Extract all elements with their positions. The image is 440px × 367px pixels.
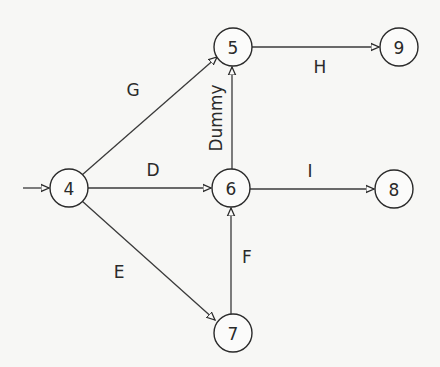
svg-text:6: 6 xyxy=(226,179,237,199)
svg-text:7: 7 xyxy=(228,324,239,344)
edge-label-g: G xyxy=(126,80,139,100)
edge-label-f: F xyxy=(242,247,252,267)
svg-text:4: 4 xyxy=(64,179,75,199)
svg-text:5: 5 xyxy=(228,38,239,58)
edge-label-h: H xyxy=(314,57,327,77)
node-4: 4 xyxy=(50,169,88,207)
node-8: 8 xyxy=(375,170,413,208)
svg-text:9: 9 xyxy=(394,38,405,58)
svg-text:8: 8 xyxy=(389,180,400,200)
edge-e-4-to-7 xyxy=(82,201,215,320)
node-6: 6 xyxy=(212,169,250,207)
node-7: 7 xyxy=(214,314,252,352)
edge-label-e: E xyxy=(114,262,125,282)
network-diagram: G D E H I F Dummy 4 5 6 7 8 9 xyxy=(0,0,440,367)
edge-g-4-to-5 xyxy=(82,57,217,175)
node-5: 5 xyxy=(214,28,252,66)
edge-label-dummy: Dummy xyxy=(206,84,226,151)
edge-label-d: D xyxy=(146,160,159,180)
edge-label-i: I xyxy=(307,161,312,181)
node-9: 9 xyxy=(380,28,418,66)
